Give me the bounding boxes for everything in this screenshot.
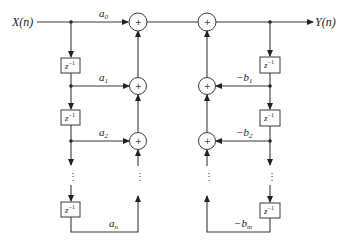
ellipsis-adder-right: ⋮ [204, 171, 214, 182]
ellipsis-adder-left: ⋮ [135, 171, 145, 182]
svg-text:+: + [204, 18, 211, 27]
iir-filter-diagram: X(n) a0 z−1 a1 z−1 a2 ⋮ z−1 an ⋮ + + + +… [0, 0, 341, 247]
svg-text:+: + [204, 137, 211, 146]
ellipsis-right: ⋮ [267, 171, 277, 182]
coef-b1: −b1 [236, 71, 252, 85]
svg-text:+: + [135, 82, 142, 91]
coef-b2: −b2 [236, 126, 253, 140]
coef-a1: a1 [99, 71, 108, 85]
adder-right-0: + [198, 13, 216, 31]
adder-right-2: + [199, 133, 216, 150]
ellipsis-left: ⋮ [68, 171, 78, 182]
adder-left-0: + [129, 13, 147, 31]
adder-right-1: + [199, 78, 216, 95]
adder-left-2: + [130, 133, 147, 150]
input-signal: X(n) [11, 15, 33, 29]
coef-an: an [109, 217, 119, 231]
adder-left-1: + [130, 78, 147, 95]
tap-an [71, 196, 138, 232]
svg-text:+: + [135, 18, 142, 27]
svg-text:+: + [135, 137, 142, 146]
coef-bm: −bm [234, 217, 252, 231]
coef-a0: a0 [99, 7, 109, 21]
coef-a2: a2 [99, 126, 109, 140]
output-label: Y(n) [315, 15, 336, 29]
svg-text:+: + [204, 82, 211, 91]
input-label: X(n) [11, 15, 33, 29]
